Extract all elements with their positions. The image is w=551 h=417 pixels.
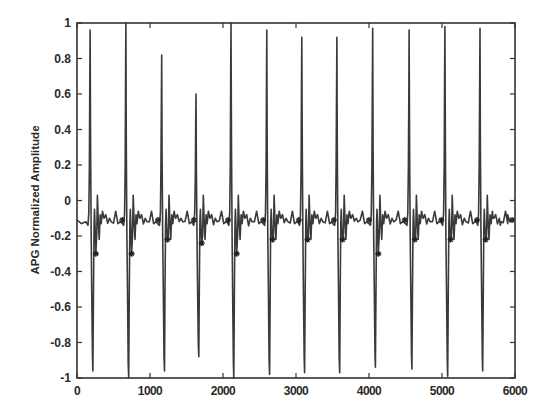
y-tick-label: 0.6	[54, 87, 71, 101]
apg-signal-line	[77, 23, 515, 378]
y-tick-label: -0.8	[50, 336, 71, 350]
star-marker-icon	[296, 217, 302, 223]
y-tick-label: 0.4	[54, 123, 71, 137]
axes-frame	[77, 23, 515, 378]
y-tick-label: -1	[60, 371, 71, 385]
y-tick-label: -0.2	[50, 229, 71, 243]
x-tick-label: 2000	[211, 384, 236, 398]
x-tick-label: 5000	[430, 384, 455, 398]
star-marker-icon	[375, 251, 381, 257]
x-tick-label: 3000	[284, 384, 309, 398]
star-marker-icon	[474, 217, 480, 223]
apg-chart: -1-0.8-0.6-0.4-0.200.20.40.60.81 0100020…	[0, 0, 551, 417]
y-tick-label: 0.8	[54, 52, 71, 66]
y-tick-label: -0.6	[50, 300, 71, 314]
y-tick-label: -0.4	[50, 265, 71, 279]
x-tick-label: 4000	[357, 384, 382, 398]
x-tick-label: 0	[74, 384, 81, 398]
y-tick-label: 1	[64, 16, 71, 30]
chart-canvas: -1-0.8-0.6-0.4-0.200.20.40.60.81 0100020…	[0, 0, 551, 417]
x-tick-label: 6000	[503, 384, 528, 398]
signal-path	[77, 23, 515, 378]
star-marker-icon	[93, 251, 99, 257]
x-tick-label: 1000	[138, 384, 163, 398]
star-marker-icon	[191, 217, 197, 223]
y-axis-label: APG Normalized Amplitude	[29, 125, 41, 274]
star-marker-icon	[331, 217, 337, 223]
y-tick-label: 0	[64, 194, 71, 208]
star-marker-icon	[225, 217, 231, 223]
star-marker-icon	[234, 251, 240, 257]
y-tick-label: 0.2	[54, 158, 71, 172]
star-marker-icon	[129, 251, 135, 257]
